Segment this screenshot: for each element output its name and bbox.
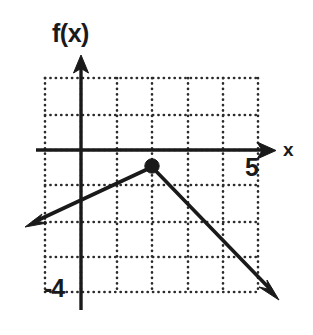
axes [36,55,276,310]
x-axis-title-label: x [283,140,294,159]
y-axis-title-label: f(x) [52,21,89,46]
vertex-point-marker [145,159,159,173]
grid-lines [45,78,258,292]
x-axis-tick-label-5: 5 [245,155,259,180]
function-graph-figure: f(x) x 5 -4 [0,0,313,335]
y-axis-tick-label-neg4: -4 [44,276,64,301]
